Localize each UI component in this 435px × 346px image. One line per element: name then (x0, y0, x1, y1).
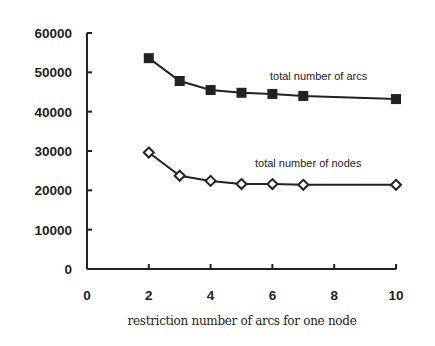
data-point-square (206, 85, 216, 95)
y-tick-label: 60000 (34, 26, 72, 41)
axes (87, 33, 396, 269)
x-tick-label: 10 (388, 288, 403, 303)
data-point-square (298, 91, 308, 101)
annotation-nodes: total number of nodes (255, 157, 362, 169)
x-tick-label: 0 (83, 288, 91, 303)
data-point-diamond (237, 179, 247, 189)
y-tick-label: 50000 (34, 65, 72, 80)
x-tick-label: 6 (269, 288, 277, 303)
y-axis-ticks: 0100002000030000400005000060000 (34, 26, 92, 277)
line-chart: 0100002000030000400005000060000 0246810 … (0, 0, 435, 346)
data-point-square (391, 94, 401, 104)
data-point-diamond (267, 179, 277, 189)
data-point-diamond (391, 180, 401, 190)
y-tick-label: 0 (64, 262, 72, 277)
y-tick-label: 40000 (34, 105, 72, 120)
data-point-diamond (298, 180, 308, 190)
x-tick-label: 8 (330, 288, 338, 303)
data-point-square (237, 88, 247, 98)
annotation-arcs: total number of arcs (270, 70, 368, 82)
y-tick-label: 20000 (34, 183, 72, 198)
x-tick-label: 2 (145, 288, 153, 303)
y-tick-label: 30000 (34, 144, 72, 159)
data-point-square (175, 76, 185, 86)
y-tick-label: 10000 (34, 223, 72, 238)
data-point-square (267, 89, 277, 99)
data-point-square (144, 53, 154, 63)
data-point-diamond (206, 176, 216, 186)
x-axis-label: restriction number of arcs for one node (128, 314, 357, 328)
x-tick-label: 4 (207, 288, 215, 303)
